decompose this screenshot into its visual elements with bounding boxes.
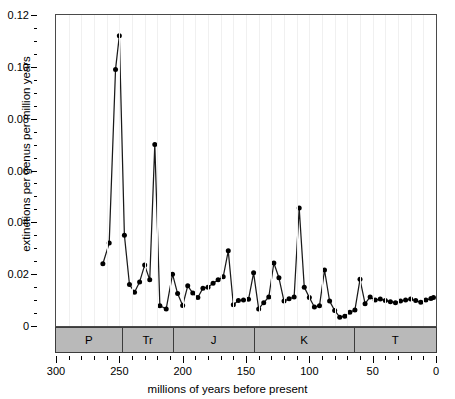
gridline xyxy=(297,15,298,326)
x-tick-minor xyxy=(233,356,234,360)
gridline xyxy=(145,15,146,326)
x-axis: 300250200150100500 millions of years bef… xyxy=(0,327,455,399)
data-point xyxy=(363,301,368,306)
x-tick-label: 50 xyxy=(353,366,393,377)
x-tick-minor xyxy=(322,356,323,360)
x-tick-minor xyxy=(145,356,146,360)
gridline xyxy=(157,15,158,326)
y-tick-minor xyxy=(34,300,38,301)
data-point xyxy=(236,298,241,303)
x-tick-label: 200 xyxy=(163,366,203,377)
data-point xyxy=(211,281,216,286)
y-tick-minor xyxy=(34,287,38,288)
gridline xyxy=(284,15,285,326)
x-tick-minor xyxy=(69,356,70,360)
extinction-rate-chart: 00.020.040.060.080.100.12 extinctions pe… xyxy=(0,0,455,399)
gridline xyxy=(373,15,374,326)
gridline xyxy=(322,15,323,326)
data-point xyxy=(200,286,205,291)
plot-area xyxy=(55,14,437,327)
gridline xyxy=(107,15,108,326)
data-point xyxy=(251,270,256,275)
series-line xyxy=(103,36,434,317)
x-tick-major xyxy=(373,356,374,363)
gridline xyxy=(398,15,399,326)
gridline xyxy=(195,15,196,326)
gridline xyxy=(69,15,70,326)
data-point xyxy=(147,277,152,282)
x-tick-minor xyxy=(107,356,108,360)
data-point xyxy=(431,295,436,300)
data-point xyxy=(302,285,307,290)
x-tick-minor xyxy=(195,356,196,360)
y-tick-minor xyxy=(34,158,38,159)
data-point xyxy=(164,306,169,311)
data-point xyxy=(137,279,142,284)
y-tick-minor xyxy=(34,196,38,197)
y-tick-major xyxy=(31,274,37,275)
y-tick-major xyxy=(31,15,37,16)
y-tick-minor xyxy=(34,313,38,314)
y-tick-label: 0.12 xyxy=(8,10,29,21)
y-axis-title: extinctions per genus per million years xyxy=(20,34,32,274)
gridline xyxy=(81,15,82,326)
gridline xyxy=(221,15,222,326)
x-tick-minor xyxy=(271,356,272,360)
y-tick-minor xyxy=(34,235,38,236)
data-point xyxy=(327,299,332,304)
data-point xyxy=(175,291,180,296)
y-tick-minor xyxy=(34,41,38,42)
gridline xyxy=(233,15,234,326)
gridline xyxy=(385,15,386,326)
data-point xyxy=(413,298,418,303)
data-point xyxy=(287,296,292,301)
x-tick-label: 150 xyxy=(226,366,266,377)
gridline xyxy=(335,15,336,326)
y-tick-minor xyxy=(34,28,38,29)
x-tick-minor xyxy=(81,356,82,360)
gridline xyxy=(208,15,209,326)
gridline xyxy=(246,15,247,326)
data-point xyxy=(100,261,105,266)
gridline xyxy=(309,15,310,326)
x-tick-minor xyxy=(360,356,361,360)
x-tick-minor xyxy=(94,356,95,360)
x-tick-label: 250 xyxy=(99,366,139,377)
gridline xyxy=(183,15,184,326)
x-tick-minor xyxy=(208,356,209,360)
gridline xyxy=(423,15,424,326)
x-tick-major xyxy=(436,356,437,363)
x-tick-label: 100 xyxy=(289,366,329,377)
x-tick-minor xyxy=(423,356,424,360)
x-tick-label: 0 xyxy=(416,366,455,377)
data-point xyxy=(388,299,393,304)
x-tick-major xyxy=(56,356,57,363)
data-point xyxy=(312,305,317,310)
x-tick-minor xyxy=(398,356,399,360)
data-point xyxy=(276,275,281,280)
x-tick-minor xyxy=(385,356,386,360)
y-tick-minor xyxy=(34,183,38,184)
x-tick-minor xyxy=(411,356,412,360)
x-axis-title: millions of years before present xyxy=(0,383,455,395)
gridline xyxy=(170,15,171,326)
x-tick-minor xyxy=(335,356,336,360)
data-point xyxy=(378,297,383,302)
gridline xyxy=(360,15,361,326)
gridline xyxy=(94,15,95,326)
gridline xyxy=(347,15,348,326)
y-tick-minor xyxy=(34,54,38,55)
gridline xyxy=(411,15,412,326)
x-tick-minor xyxy=(259,356,260,360)
data-point xyxy=(352,307,357,312)
y-tick-minor xyxy=(34,80,38,81)
x-tick-minor xyxy=(284,356,285,360)
x-tick-major xyxy=(183,356,184,363)
x-tick-major xyxy=(309,356,310,363)
y-tick-minor xyxy=(34,145,38,146)
data-point xyxy=(122,233,127,238)
y-tick-minor xyxy=(34,106,38,107)
y-tick-minor xyxy=(34,261,38,262)
x-tick-minor xyxy=(297,356,298,360)
x-tick-major xyxy=(119,356,120,363)
